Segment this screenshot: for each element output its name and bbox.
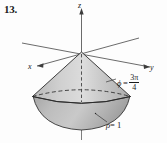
figure-container: 13. [0,0,167,143]
x-axis-label: x [28,62,32,71]
phi-numerator: 3π [129,74,139,83]
phi-equals-sign: = [123,78,128,88]
rho-annotation: ρ= 1 [106,120,121,130]
phi-denominator: 4 [131,83,137,92]
z-axis-upper [79,8,83,52]
y-axis-label: y [150,63,154,72]
phi-symbol: ϕ [117,78,121,88]
rho-value: = 1 [110,120,121,130]
spherical-coordinates-diagram [0,0,167,143]
phi-annotation: ϕ = 3π 4 [117,74,139,92]
z-axis-label: z [78,1,81,10]
phi-value-fraction: 3π 4 [129,74,139,92]
